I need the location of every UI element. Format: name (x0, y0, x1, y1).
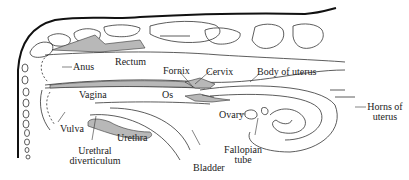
label-fornix: Fornix (163, 66, 190, 76)
label-rectum: Rectum (115, 57, 146, 67)
label-urethral-diverticulum-line2: diverticulum (65, 156, 125, 166)
label-urethra: Urethra (117, 133, 148, 143)
rectum-wall-tissue (52, 35, 145, 52)
anatomy-drawing (0, 0, 409, 180)
label-anus: Anus (73, 62, 94, 72)
anatomy-diagram: Anus Rectum Fornix Cervix Body of uterus… (0, 0, 409, 180)
label-ovary: Ovary (219, 110, 244, 120)
label-vagina: Vagina (79, 90, 107, 100)
tail-vertebrae (22, 64, 30, 159)
label-cervix: Cervix (206, 67, 233, 77)
label-horns-of-uterus-line2: uterus (360, 112, 409, 122)
label-fallopian-tube-line2: tube (218, 155, 268, 165)
label-bladder: Bladder (193, 163, 225, 173)
label-body-of-uterus: Body of uterus (257, 67, 316, 77)
label-os: Os (162, 90, 173, 100)
label-vulva: Vulva (60, 124, 84, 134)
